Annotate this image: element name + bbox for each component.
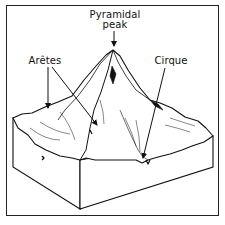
label-cirque: Cirque (151, 56, 191, 66)
label-pyramidal-line2: peak (85, 20, 145, 30)
mountain-block-diagram (0, 0, 225, 225)
terrain-surface (13, 50, 213, 164)
label-pyramidal-peak: Pyramidal peak (85, 10, 145, 30)
label-aretes: Arêtes (25, 56, 65, 66)
